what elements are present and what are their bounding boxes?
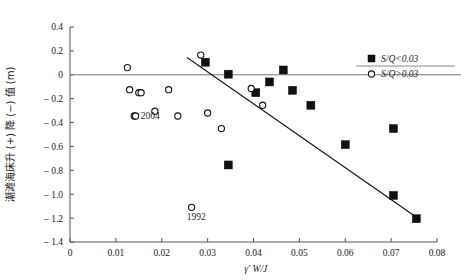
y-tick-label: – 1.4 bbox=[43, 237, 63, 247]
x-tick-label: 0.04 bbox=[245, 248, 262, 258]
data-point-circle bbox=[205, 110, 211, 116]
y-tick-label: – 1.2 bbox=[43, 214, 63, 224]
y-tick-label: – 0.4 bbox=[43, 118, 63, 128]
y-tick-label: – 0.6 bbox=[43, 142, 63, 152]
legend-label-1: S/Q>0.03 bbox=[381, 69, 419, 79]
data-point-circle bbox=[260, 102, 266, 108]
data-point-circle bbox=[175, 113, 181, 119]
data-point-square bbox=[307, 101, 315, 109]
x-tick-label: 0.08 bbox=[429, 248, 446, 258]
data-point-circle bbox=[138, 90, 144, 96]
data-point-square bbox=[201, 58, 209, 66]
data-point-circle bbox=[218, 125, 224, 131]
y-tick-label: – 1.0 bbox=[43, 190, 63, 200]
y-tick-label: – 0.2 bbox=[43, 94, 63, 104]
x-tick-label: 0 bbox=[68, 248, 73, 258]
x-tick-label: 0.07 bbox=[383, 248, 400, 258]
y-tick-label: – 0.8 bbox=[43, 166, 63, 176]
y-tick-label: 0.2 bbox=[51, 46, 63, 56]
x-tick-label: 0.03 bbox=[199, 248, 216, 258]
data-point-circle bbox=[188, 204, 194, 210]
x-tick-label: 0.05 bbox=[291, 248, 308, 258]
data-point-circle bbox=[248, 85, 254, 91]
data-point-square bbox=[224, 161, 232, 169]
chart-figure: 0.40.20– 0.2– 0.4– 0.6– 0.8– 1.0– 1.2– 1… bbox=[0, 0, 461, 280]
x-tick-label: 0.02 bbox=[153, 248, 170, 258]
data-point-circle bbox=[133, 113, 139, 119]
data-point-circle bbox=[127, 87, 133, 93]
data-point-square bbox=[224, 70, 232, 78]
x-tick-label: 0.06 bbox=[337, 248, 354, 258]
data-point-circle bbox=[198, 52, 204, 58]
data-point-circle bbox=[124, 65, 130, 71]
data-point-circle bbox=[166, 87, 172, 93]
data-point-square bbox=[389, 125, 397, 133]
data-annotation: 1992 bbox=[187, 212, 206, 222]
scatter-plot-svg: 0.40.20– 0.2– 0.4– 0.6– 0.8– 1.0– 1.2– 1… bbox=[0, 0, 461, 280]
trend-line bbox=[187, 57, 419, 218]
data-point-square bbox=[412, 215, 420, 223]
data-annotation: 2004 bbox=[141, 111, 160, 121]
data-point-square bbox=[288, 86, 296, 94]
legend-marker-circle bbox=[368, 71, 374, 77]
legend-marker-square bbox=[368, 55, 375, 62]
y-tick-label: 0 bbox=[58, 70, 63, 80]
y-tick-label: 0.4 bbox=[51, 22, 63, 32]
x-tick-label: 0.01 bbox=[108, 248, 125, 258]
legend-label-0: S/Q<0.03 bbox=[381, 54, 419, 64]
data-point-square bbox=[266, 78, 274, 86]
x-axis-title: γ' W/J bbox=[244, 264, 268, 274]
data-point-square bbox=[341, 141, 349, 149]
data-point-square bbox=[279, 66, 287, 74]
y-axis-title: 潮滩海床升 (+) 降 (−) 值 (m) bbox=[4, 67, 16, 203]
data-point-square bbox=[389, 191, 397, 199]
